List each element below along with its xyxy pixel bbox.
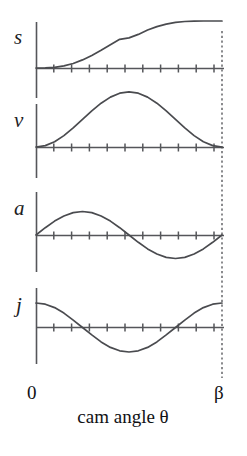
- panel-displacement: s: [14, 21, 224, 98]
- jerk-axis-label: j: [13, 293, 22, 317]
- panel-velocity: v: [14, 92, 224, 178]
- x-axis-caption: cam angle θ: [77, 406, 168, 427]
- velocity-curve: [36, 92, 222, 147]
- panel-jerk: j: [13, 288, 224, 364]
- x-axis-end-label: β: [214, 382, 224, 403]
- panel-acceleration: a: [14, 192, 224, 272]
- acceleration-axis-label: a: [14, 196, 25, 220]
- svaj-chart-svg: s v: [0, 0, 247, 456]
- svaj-cam-motion-figure: s v: [0, 0, 247, 456]
- displacement-axis-label: s: [14, 25, 22, 49]
- velocity-axis-label: v: [14, 108, 24, 132]
- displacement-curve: [36, 21, 222, 68]
- x-axis-start-label: 0: [27, 382, 37, 403]
